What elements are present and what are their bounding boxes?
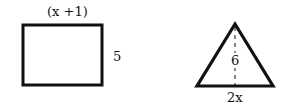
triangle-height-label: 6 [231,53,239,68]
rectangle-width-label: (x +1) [47,5,88,18]
figure-canvas [0,0,292,110]
rectangle-height-label: 5 [113,50,121,63]
rectangle-shape [23,25,102,85]
triangle-base-label: 2x [227,91,243,104]
